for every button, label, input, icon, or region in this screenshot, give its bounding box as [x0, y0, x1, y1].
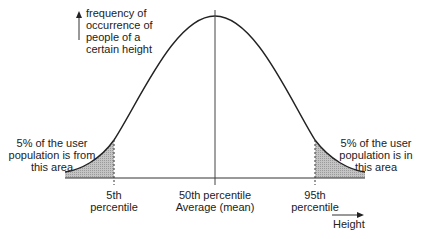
- x-axis-label: Height: [333, 218, 365, 230]
- y-axis-label: frequency of occurrence of people of a c…: [86, 7, 153, 55]
- right-tail-note: 5% of the user population is in this are…: [330, 137, 422, 173]
- p50-label: 50th percentile Average (mean): [165, 189, 265, 213]
- p95-label: 95th percentile: [280, 189, 350, 213]
- y-arrow-head: [76, 11, 82, 18]
- p5-label: 5th percentile: [79, 189, 149, 213]
- left-tail-note: 5% of the user population is from this a…: [2, 137, 102, 173]
